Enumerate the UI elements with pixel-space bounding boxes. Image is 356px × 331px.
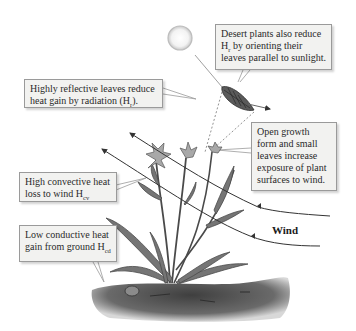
wind-arrowhead-2 [251, 233, 255, 239]
callout-text: Open growth form and small leaves increa… [257, 126, 326, 185]
wind-arrowhead-1 [257, 203, 261, 209]
dashed-guide-1 [205, 92, 222, 152]
wind-label: Wind [272, 224, 298, 236]
dashed-guide-2 [212, 112, 254, 150]
callout-text: ). [132, 95, 138, 106]
callout-text: Low conductive heat gain from ground H [25, 229, 109, 252]
callout-open-growth: Open growth form and small leaves increa… [251, 122, 337, 191]
sun-icon [168, 26, 192, 50]
callout-leaf-orientation: Desert plants also reduce Hr by orientin… [215, 24, 332, 70]
callout-convective: High convective heat loss to wind Hcv [19, 172, 117, 202]
leaf-illustration [222, 87, 254, 111]
callout-reflective-leaves: Highly reflective leaves reduce heat gai… [24, 79, 163, 108]
callout-text: High convective heat loss to wind H [25, 176, 110, 199]
ground-illustration [92, 277, 290, 321]
callout-conductive: Low conductive heat gain from ground Hcd [19, 225, 117, 262]
subscript: cv [83, 194, 89, 201]
subscript: cd [105, 247, 111, 254]
plant-illustration [106, 142, 248, 284]
callout-text: by orienting their leaves parallel to su… [221, 40, 326, 63]
